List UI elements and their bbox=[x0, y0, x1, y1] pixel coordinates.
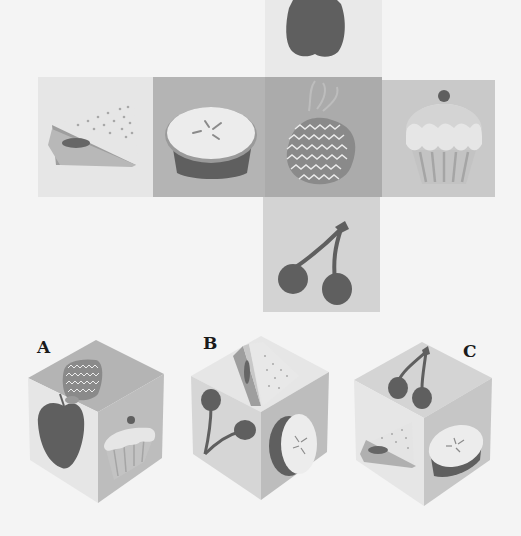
option-cube-a[interactable] bbox=[26, 340, 166, 505]
net-face-pie bbox=[153, 77, 265, 197]
apple-icon bbox=[265, 0, 382, 78]
sandwich-icon bbox=[38, 77, 153, 197]
pie-icon bbox=[269, 414, 317, 476]
pineapple-icon bbox=[63, 359, 103, 400]
net-face-top-apple bbox=[265, 0, 382, 78]
pineapple-icon bbox=[265, 77, 382, 197]
cherries-icon bbox=[263, 197, 380, 312]
cupcake-icon bbox=[382, 80, 495, 197]
pie-icon bbox=[153, 77, 265, 197]
net-face-sandwich bbox=[38, 77, 153, 197]
option-cube-b[interactable] bbox=[189, 336, 331, 502]
option-cube-c[interactable] bbox=[352, 342, 494, 508]
net-face-pineapple bbox=[265, 77, 382, 197]
net-face-cupcake bbox=[382, 80, 495, 197]
net-face-bottom-cherries bbox=[263, 197, 380, 312]
